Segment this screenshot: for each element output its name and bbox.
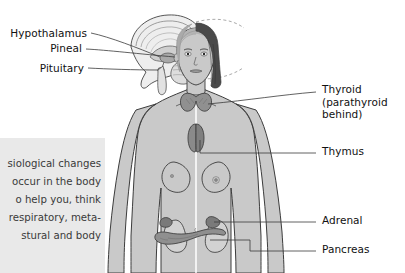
label-thymus: Thymus (322, 145, 364, 158)
label-thyroid: Thyroid (parathyroid behind) (322, 83, 388, 121)
label-pineal: Pineal (50, 42, 82, 55)
label-hypothalamus: Hypothalamus (10, 27, 87, 40)
excerpt-text-box: siological changes occur in the body o h… (0, 138, 105, 273)
label-thyroid-line1: Thyroid (322, 83, 388, 96)
excerpt-line-1: siological changes (8, 158, 101, 169)
excerpt-line-5: stural and body (21, 230, 101, 241)
label-adrenal: Adrenal (322, 214, 363, 227)
excerpt-line-4: respiratory, meta- (9, 212, 101, 223)
label-pancreas: Pancreas (322, 243, 370, 256)
human-figure (108, 23, 284, 273)
label-pituitary-text: Pituitary (40, 62, 84, 74)
label-pancreas-line1: Pancreas (322, 243, 370, 256)
diagram-page: Hypothalamus Pineal Pituitary Thyroid (p… (0, 0, 405, 273)
label-pituitary: Pituitary (40, 62, 84, 75)
label-pineal-text: Pineal (50, 42, 82, 54)
label-hypothalamus-text: Hypothalamus (10, 27, 87, 39)
excerpt-line-3: o help you, think (15, 194, 101, 205)
label-thymus-line1: Thymus (322, 145, 364, 158)
thymus-organ (188, 124, 204, 152)
label-thyroid-line3: behind) (322, 108, 388, 121)
label-adrenal-line1: Adrenal (322, 214, 363, 227)
label-thyroid-line2: (parathyroid (322, 96, 388, 109)
excerpt-line-2: occur in the body (12, 176, 101, 187)
